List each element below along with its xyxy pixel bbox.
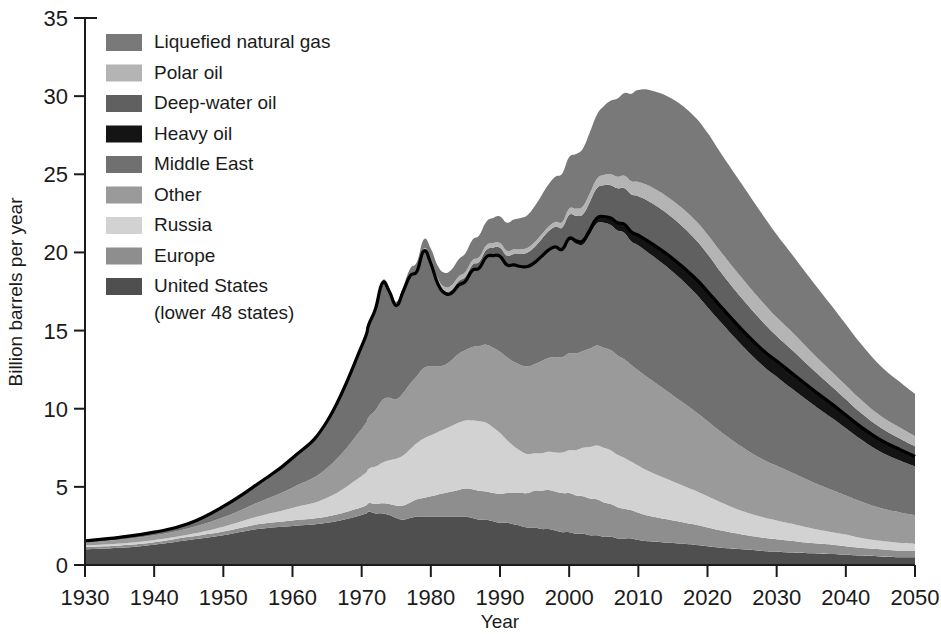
chart-svg: 0510152025303519301940195019601970198019…	[0, 0, 941, 634]
legend-label-secondline: (lower 48 states)	[154, 302, 294, 323]
legend-label: Middle East	[154, 153, 254, 174]
legend-label: Polar oil	[154, 62, 223, 83]
x-tick-label: 1980	[406, 585, 455, 610]
x-tick-label: 2040	[821, 585, 870, 610]
x-tick-label: 1950	[199, 585, 248, 610]
y-tick-label: 25	[44, 162, 68, 187]
x-tick-label: 2010	[614, 585, 663, 610]
x-tick-label: 2030	[752, 585, 801, 610]
legend-swatch	[106, 278, 142, 295]
legend-swatch	[106, 65, 142, 82]
y-tick-label: 15	[44, 319, 68, 344]
chart-legend: Liquefied natural gasPolar oilDeep-water…	[106, 31, 330, 323]
y-tick-label: 10	[44, 397, 68, 422]
x-tick-label: 2020	[683, 585, 732, 610]
x-tick-label: 1930	[61, 585, 110, 610]
legend-swatch	[106, 217, 142, 234]
y-tick-label: 0	[56, 553, 68, 578]
x-tick-label: 1970	[337, 585, 386, 610]
legend-swatch	[106, 95, 142, 112]
legend-label: Europe	[154, 245, 215, 266]
x-tick-label: 1940	[130, 585, 179, 610]
x-tick-label: 2000	[545, 585, 594, 610]
legend-label: United States	[154, 275, 268, 296]
y-axis-title: Billion barrels per year	[5, 197, 26, 387]
legend-label: Heavy oil	[154, 123, 232, 144]
x-tick-label: 2050	[891, 585, 940, 610]
y-tick-label: 35	[44, 6, 68, 31]
x-tick-label: 1960	[268, 585, 317, 610]
y-tick-label: 20	[44, 240, 68, 265]
legend-swatch	[106, 34, 142, 51]
legend-swatch	[106, 248, 142, 265]
x-tick-label: 1990	[476, 585, 525, 610]
legend-label: Russia	[154, 214, 213, 235]
area-chart: 0510152025303519301940195019601970198019…	[0, 0, 941, 634]
legend-swatch	[106, 187, 142, 204]
x-axis-title: Year	[481, 611, 520, 632]
legend-label: Deep-water oil	[154, 92, 277, 113]
legend-swatch	[106, 126, 142, 143]
y-tick-label: 5	[56, 475, 68, 500]
legend-swatch	[106, 156, 142, 173]
y-tick-label: 30	[44, 84, 68, 109]
legend-label: Liquefied natural gas	[154, 31, 330, 52]
legend-label: Other	[154, 184, 202, 205]
